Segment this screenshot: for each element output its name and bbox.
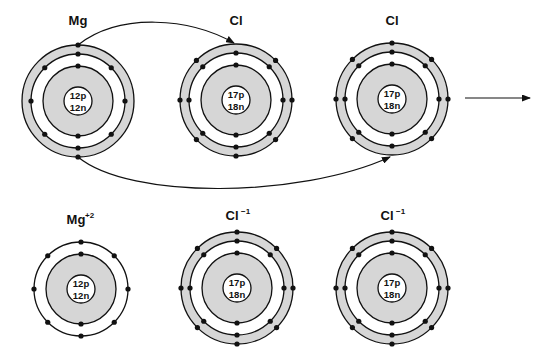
atom-label: Cl [230, 13, 243, 28]
electron [350, 57, 355, 62]
atom-label: Cl [226, 208, 239, 223]
electron [389, 238, 394, 243]
electron [274, 246, 279, 251]
electron [268, 319, 273, 324]
electron [194, 58, 199, 63]
electron [200, 64, 205, 69]
electron [350, 136, 355, 141]
electron [78, 251, 83, 256]
electron [233, 132, 238, 137]
electron [423, 130, 428, 135]
electron [75, 133, 80, 138]
atom-cl2: 17p18nCl [333, 13, 450, 155]
atoms-layer: 12p12nMg17p18nCl17p18nCl12p12nMg+217p18n… [22, 13, 451, 347]
electron [268, 252, 273, 257]
electron [436, 285, 441, 290]
atom-label: Mg [69, 13, 88, 28]
electron [75, 63, 80, 68]
electron [186, 97, 191, 102]
electron [350, 246, 355, 251]
neutron-count: 18n [228, 101, 245, 112]
electron [195, 325, 200, 330]
transfer-arrow-top [78, 22, 234, 45]
proton-count: 17p [229, 277, 246, 288]
electron [233, 153, 238, 158]
charge-superscript: −1 [396, 207, 406, 216]
electron [78, 321, 83, 326]
electron [31, 286, 36, 291]
electron [195, 246, 200, 251]
atom-label: Cl [381, 208, 394, 223]
electron [112, 253, 117, 258]
proton-count: 12p [73, 278, 90, 289]
electron [445, 96, 450, 101]
electron [234, 250, 239, 255]
electron [389, 250, 394, 255]
electron [290, 285, 295, 290]
electron [389, 49, 394, 54]
electron [109, 65, 114, 70]
ionic-bond-diagram: 12p12nMg17p18nCl17p18nCl12p12nMg+217p18n… [0, 0, 557, 361]
atom-mg: 12p12nMg [22, 13, 134, 160]
arrows-layer [78, 22, 530, 188]
neutron-count: 18n [384, 289, 401, 300]
charge-superscript: −1 [241, 207, 251, 216]
proton-count: 17p [228, 89, 245, 100]
electron [389, 143, 394, 148]
electron [233, 144, 238, 149]
electron [356, 63, 361, 68]
electron [356, 319, 361, 324]
electron [389, 61, 394, 66]
electron [234, 238, 239, 243]
electron [445, 285, 450, 290]
electron [267, 64, 272, 69]
electron [356, 130, 361, 135]
electron [423, 63, 428, 68]
electron [42, 65, 47, 70]
electron [350, 325, 355, 330]
transfer-arrow-bottom [78, 157, 390, 189]
electron [78, 239, 83, 244]
atom-cl_ion2: 17p18nCl−1 [333, 207, 450, 347]
electron [274, 325, 279, 330]
electron [281, 285, 286, 290]
electron [194, 137, 199, 142]
electron [75, 145, 80, 150]
electron [233, 62, 238, 67]
electron [429, 57, 434, 62]
electron [342, 285, 347, 290]
electron [45, 320, 50, 325]
electron [125, 286, 130, 291]
electron [122, 98, 127, 103]
proton-count: 17p [384, 277, 401, 288]
electron [177, 97, 182, 102]
proton-count: 17p [384, 88, 401, 99]
electron [389, 40, 394, 45]
electron [429, 136, 434, 141]
electron [273, 58, 278, 63]
electron [187, 285, 192, 290]
electron [234, 332, 239, 337]
neutron-count: 18n [384, 100, 401, 111]
atom-label: Cl [386, 13, 399, 28]
electron [333, 285, 338, 290]
electron [234, 229, 239, 234]
electron [389, 320, 394, 325]
atom-mg_ion: 12p12nMg+2 [31, 211, 130, 339]
electron [200, 131, 205, 136]
neutron-count: 18n [229, 289, 246, 300]
electron [75, 51, 80, 56]
electron [201, 252, 206, 257]
proton-count: 12p [70, 90, 87, 101]
electron [429, 325, 434, 330]
atom-cl1: 17p18nCl [177, 13, 294, 159]
electron [280, 97, 285, 102]
electron [429, 246, 434, 251]
electron [389, 229, 394, 234]
electron [289, 97, 294, 102]
neutron-count: 12n [70, 102, 87, 113]
electron [267, 131, 272, 136]
neutron-count: 12n [73, 290, 90, 301]
electron [333, 96, 338, 101]
electron [423, 319, 428, 324]
